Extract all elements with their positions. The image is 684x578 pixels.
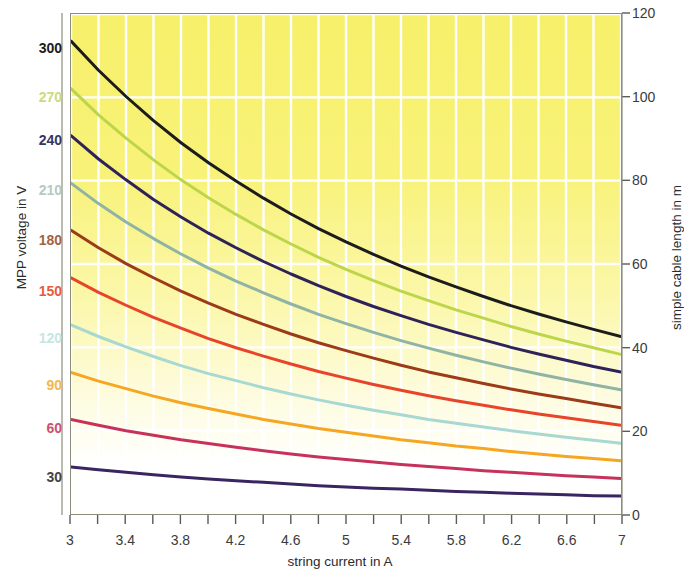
bottom-tick-5: 5	[342, 533, 350, 547]
left-tick-90: 90	[46, 378, 62, 392]
left-tick-30: 30	[46, 470, 62, 484]
bottom-axis-title: string current in A	[0, 554, 680, 569]
right-tick-120: 120	[632, 6, 655, 20]
bottom-tick-3.8: 3.8	[171, 533, 190, 547]
bottom-tick-3: 3	[66, 533, 74, 547]
left-tick-210: 210	[39, 183, 62, 197]
left-tick-120: 120	[39, 331, 62, 345]
bottom-tick-4.6: 4.6	[281, 533, 300, 547]
curve-30	[71, 467, 621, 496]
bottom-tick-6.6: 6.6	[557, 533, 576, 547]
left-tick-150: 150	[39, 284, 62, 298]
curve-120	[71, 325, 621, 443]
right-tick-60: 60	[632, 257, 648, 271]
curve-240	[71, 136, 621, 372]
left-tick-180: 180	[39, 233, 62, 247]
bottom-tick-6.2: 6.2	[502, 533, 521, 547]
curve-180	[71, 230, 621, 407]
right-tick-0: 0	[632, 508, 640, 522]
bottom-tick-3.4: 3.4	[115, 533, 134, 547]
plot-area	[70, 13, 622, 515]
bottom-tick-4.2: 4.2	[226, 533, 245, 547]
left-tick-60: 60	[46, 421, 62, 435]
left-tick-300: 300	[39, 41, 62, 55]
left-axis-title: MPP voltage in V	[14, 163, 29, 313]
bottom-tick-5.8: 5.8	[447, 533, 466, 547]
left-tick-270: 270	[39, 90, 62, 104]
right-tick-40: 40	[632, 341, 648, 355]
curve-60	[71, 419, 621, 478]
curve-90	[71, 372, 621, 460]
bottom-tick-5.4: 5.4	[391, 533, 410, 547]
curve-210	[71, 183, 621, 390]
left-tick-240: 240	[39, 133, 62, 147]
right-tick-100: 100	[632, 90, 655, 104]
bottom-tick-7: 7	[618, 533, 626, 547]
right-tick-20: 20	[632, 424, 648, 438]
curves-layer	[71, 14, 621, 514]
right-axis-title: simple cable length in m	[669, 168, 684, 348]
curve-300	[71, 41, 621, 336]
right-tick-80: 80	[632, 173, 648, 187]
